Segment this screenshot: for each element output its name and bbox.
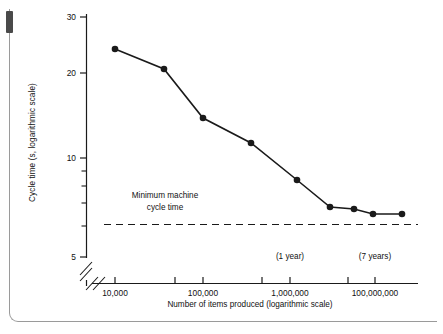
chart-svg: [0, 0, 443, 334]
data-point-marker[interactable]: [351, 206, 358, 213]
x-axis-title: Number of items produced (logarithmic sc…: [100, 300, 400, 309]
y-axis-break-mark-1: [80, 262, 92, 275]
x-tick-label-100000000: 100,000,000: [335, 288, 415, 298]
minimum-machine-cycle-time-label-line1: Minimum machine: [95, 190, 235, 202]
y-tick-label-30: 30: [50, 12, 76, 22]
x-tick-label-10000: 10,000: [75, 288, 155, 298]
data-point-marker[interactable]: [248, 140, 255, 147]
figure-root: 30 20 10 5 10,000 100,000 1,000,000 100,…: [0, 0, 443, 334]
data-point-marker[interactable]: [200, 115, 207, 122]
y-axis-title: Cycle time (s, logarithmic scale): [28, 48, 37, 238]
data-point-marker[interactable]: [370, 211, 377, 218]
y-axis-break-mark-2: [80, 268, 92, 281]
minimum-machine-cycle-time-label-line2: cycle time: [95, 202, 235, 214]
x-tick-label-100000: 100,000: [163, 288, 243, 298]
data-point-marker[interactable]: [327, 204, 334, 211]
y-tick-label-10: 10: [50, 153, 76, 163]
y-tick-label-5: 5: [50, 252, 76, 262]
data-point-marker[interactable]: [294, 177, 301, 184]
data-point-marker[interactable]: [112, 46, 119, 53]
data-point-marker[interactable]: [399, 211, 406, 218]
y-tick-label-20: 20: [50, 68, 76, 78]
annotation-7-years: (7 years): [335, 252, 415, 261]
data-point-marker[interactable]: [161, 66, 168, 73]
chart-plot-area: 30 20 10 5 10,000 100,000 1,000,000 100,…: [0, 0, 443, 334]
x-tick-label-1000000: 1,000,000: [250, 288, 330, 298]
annotation-1-year: (1 year): [250, 252, 330, 261]
